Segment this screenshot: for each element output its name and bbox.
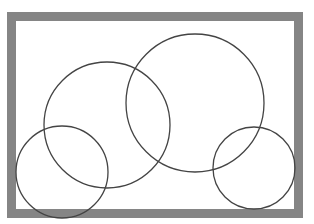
diagram-canvas [0, 0, 314, 224]
